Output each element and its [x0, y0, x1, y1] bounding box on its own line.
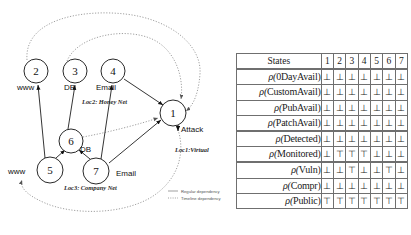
- cell-vuln-7: ⊥: [395, 162, 407, 178]
- attack-label: Attack: [181, 125, 204, 134]
- edge-7-to-4: [101, 85, 112, 159]
- edge-5-to-2: [38, 85, 45, 158]
- node-5-label: 5: [47, 164, 53, 176]
- cell-patchavail-1: ⊥: [321, 115, 333, 131]
- cell-0dayavail-7: ⊥: [395, 69, 407, 85]
- cell-detected-6: ⊥: [383, 131, 395, 147]
- cell-customavail-3: ⊥: [346, 85, 358, 100]
- cell-monitored-2: ⊤: [333, 147, 345, 163]
- cell-detected-2: ⊥: [333, 131, 345, 147]
- node-3-label: 3: [72, 65, 78, 77]
- states-column-header: States: [237, 54, 322, 70]
- node-1[interactable]: 1: [160, 100, 186, 126]
- cell-detected-7: ⊥: [395, 131, 407, 147]
- col-header-2: 2: [333, 54, 345, 70]
- col-header-7: 7: [395, 54, 407, 70]
- cell-customavail-6: ⊥: [383, 85, 395, 100]
- cell-public-5: ⊤: [370, 193, 382, 208]
- state-name-detected: ρ(Detected): [237, 131, 322, 147]
- cell-detected-1: ⊥: [321, 131, 333, 147]
- cell-vuln-6: ⊤: [383, 162, 395, 178]
- col-header-5: 5: [370, 54, 382, 70]
- cell-patchavail-7: ⊥: [395, 115, 407, 131]
- node-2-label: 2: [33, 65, 39, 77]
- cell-vuln-2: ⊥: [333, 162, 345, 178]
- col-header-3: 3: [346, 54, 358, 70]
- email-label-top: Email: [96, 83, 116, 92]
- state-name-vuln: ρ(Vuln): [237, 162, 322, 178]
- cell-monitored-6: ⊥: [383, 147, 395, 163]
- www-label-bottom: www: [7, 167, 26, 176]
- state-name-compr: ρ(Compr): [237, 178, 322, 193]
- cell-compr-4: ⊥: [358, 178, 370, 193]
- cell-pubavail-1: ⊥: [321, 100, 333, 115]
- table-row: ρ(Monitored)⊥⊤⊤⊤⊥⊥⊥: [237, 147, 408, 163]
- cell-0dayavail-6: ⊥: [383, 69, 395, 85]
- cell-detected-5: ⊥: [370, 131, 382, 147]
- table-row: ρ(PubAvail)⊥⊥⊥⊥⊥⊥⊥: [237, 100, 408, 115]
- node-7[interactable]: 7: [83, 158, 109, 184]
- node-4[interactable]: 4: [101, 59, 125, 83]
- cell-vuln-5: ⊥: [370, 162, 382, 178]
- cell-public-4: ⊤: [358, 193, 370, 208]
- states-table-body: ρ(0DayAvail)⊥⊥⊥⊥⊥⊥⊥ρ(CustomAvail)⊥⊥⊥⊥⊥⊥⊥…: [237, 69, 408, 208]
- state-name-monitored: ρ(Monitored): [237, 147, 322, 163]
- cell-monitored-3: ⊤: [346, 147, 358, 163]
- edge-4-to-1: [124, 79, 163, 105]
- cell-patchavail-3: ⊥: [346, 115, 358, 131]
- loc2-honeynet-label: Loc2: Honey Net: [81, 98, 127, 105]
- cell-pubavail-4: ⊥: [358, 100, 370, 115]
- table-row: ρ(0DayAvail)⊥⊥⊥⊥⊥⊥⊥: [237, 69, 408, 85]
- cell-customavail-1: ⊥: [321, 85, 333, 100]
- cell-customavail-7: ⊥: [395, 85, 407, 100]
- cell-monitored-1: ⊥: [321, 147, 333, 163]
- cell-compr-5: ⊥: [370, 178, 382, 193]
- cell-0dayavail-3: ⊥: [346, 69, 358, 85]
- cell-0dayavail-1: ⊥: [321, 69, 333, 85]
- cell-monitored-4: ⊤: [358, 147, 370, 163]
- cell-0dayavail-5: ⊥: [370, 69, 382, 85]
- table-row: ρ(PatchAvail)⊥⊥⊥⊥⊥⊥⊥: [237, 115, 408, 131]
- cell-0dayavail-4: ⊥: [358, 69, 370, 85]
- cell-detected-3: ⊥: [346, 131, 358, 147]
- edge-7-to-1: [109, 120, 161, 163]
- cell-patchavail-2: ⊥: [333, 115, 345, 131]
- edge-5-to-6: [56, 150, 65, 158]
- state-name-customavail: ρ(CustomAvail): [237, 85, 322, 100]
- node-5[interactable]: 5: [37, 157, 63, 183]
- table-row: ρ(Vuln)⊥⊥⊤⊥⊥⊤⊥: [237, 162, 408, 178]
- www-label-top: www: [16, 83, 35, 92]
- cell-public-7: ⊤: [395, 193, 407, 208]
- dependency-graph-svg: 1 2 3 4 5: [0, 0, 232, 235]
- cell-0dayavail-2: ⊥: [333, 69, 345, 85]
- cell-customavail-5: ⊥: [370, 85, 382, 100]
- col-header-6: 6: [383, 54, 395, 70]
- table-header-row: States 1 2 3 4 5 6 7: [237, 54, 408, 70]
- cell-vuln-3: ⊤: [346, 162, 358, 178]
- cell-patchavail-4: ⊥: [358, 115, 370, 131]
- col-header-1: 1: [321, 54, 333, 70]
- cell-public-2: ⊤: [333, 193, 345, 208]
- figure-root: 1 2 3 4 5: [0, 0, 411, 235]
- db-label-top: DB: [64, 83, 75, 92]
- cell-pubavail-5: ⊥: [370, 100, 382, 115]
- state-name-0dayavail: ρ(0DayAvail): [237, 69, 322, 85]
- cell-compr-2: ⊥: [333, 178, 345, 193]
- table-row: ρ(Compr)⊥⊥⊥⊥⊥⊥⊥: [237, 178, 408, 193]
- node-1-label: 1: [170, 107, 176, 119]
- cell-pubavail-2: ⊥: [333, 100, 345, 115]
- node-4-label: 4: [110, 65, 116, 77]
- cell-monitored-7: ⊥: [395, 147, 407, 163]
- loc1-virtual-label: Loc1:Virtual: [174, 146, 209, 153]
- node-2[interactable]: 2: [24, 59, 48, 83]
- legend-regular-label: Regular dependency: [181, 189, 221, 194]
- states-table-panel: States 1 2 3 4 5 6 7 ρ(0DayAvail)⊥⊥⊥⊥⊥⊥⊥…: [236, 53, 408, 209]
- cell-patchavail-6: ⊥: [383, 115, 395, 131]
- legend-timeline-label: Timeline dependency: [181, 196, 222, 201]
- node-3[interactable]: 3: [63, 59, 87, 83]
- cell-compr-7: ⊥: [395, 178, 407, 193]
- timeline-edge-six-to-one: [83, 118, 158, 137]
- table-row: ρ(CustomAvail)⊥⊥⊥⊥⊥⊥⊥: [237, 85, 408, 100]
- node-6-label: 6: [68, 135, 74, 147]
- cell-customavail-4: ⊥: [358, 85, 370, 100]
